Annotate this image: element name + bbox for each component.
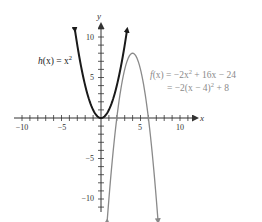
h-function-label: h(x) = x2 (38, 54, 72, 67)
x-tick-label: 10 (176, 123, 184, 132)
y-tick-label: −5 (85, 154, 94, 163)
x-tick-label: −10 (16, 123, 29, 132)
y-axis: y 10 5 −5 −10 (81, 11, 104, 212)
f-function-label-line1: f(x) = −2x2 + 16x − 24 (150, 68, 236, 81)
y-tick-label: 5 (90, 73, 94, 82)
x-axis: x −10 −5 5 10 (14, 113, 204, 132)
x-axis-label: x (199, 113, 204, 123)
y-tick-label: −10 (81, 194, 94, 203)
x-tick-label: −5 (58, 123, 67, 132)
y-tick-label: 10 (86, 33, 94, 42)
f-function-label-line2: = −2(x − 4)2 + 8 (167, 81, 229, 94)
x-tick-label: 5 (138, 123, 142, 132)
graph-canvas: x −10 −5 5 10 y 10 5 −5 −10 h(x) = x2 f(… (0, 0, 262, 222)
y-axis-label: y (96, 11, 101, 21)
